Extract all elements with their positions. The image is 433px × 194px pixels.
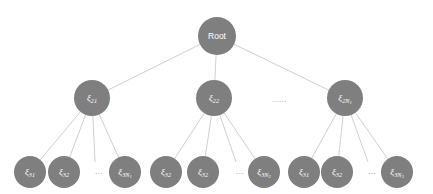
tree-node-level2-1-label: ξ22 [209, 94, 219, 103]
tree-node-leaf-2-2-label: ξ3N3 [390, 168, 403, 177]
tree-node-leaf-1-0-label: ξ32 [161, 168, 171, 177]
tree-node-leaf-1-0[interactable]: ξ32 [150, 156, 182, 188]
tree-node-leaf-2-2[interactable]: ξ3N3 [381, 156, 413, 188]
tree-leaf-group-1-ellipsis: ... [236, 168, 244, 176]
tree-node-root-label: Root [208, 32, 226, 41]
tree-leaf-group-2-ellipsis: ... [368, 168, 376, 176]
tree-node-leaf-0-2-label: ξ3N1 [118, 168, 131, 177]
tree-node-level2-2[interactable]: ξ2N1 [327, 80, 363, 116]
tree-node-level2-0[interactable]: ξ21 [74, 80, 110, 116]
tree-node-level2-1[interactable]: ξ22 [196, 80, 232, 116]
tree-node-leaf-1-2[interactable]: ξ3N2 [248, 156, 280, 188]
tree-node-level2-2-label: ξ2N1 [338, 94, 351, 103]
tree-node-leaf-0-0[interactable]: ξ31 [14, 156, 46, 188]
tree-level2-ellipsis: ...... [272, 96, 287, 103]
tree-leaf-group-0-ellipsis: ... [95, 168, 103, 176]
tree-node-leaf-1-1-label: ξ32 [198, 168, 208, 177]
tree-node-leaf-1-1[interactable]: ξ32 [187, 156, 219, 188]
tree-node-leaf-0-1[interactable]: ξ32 [48, 156, 80, 188]
tree-node-leaf-0-1-label: ξ32 [59, 168, 69, 177]
tree-node-leaf-2-0-label: ξ31 [299, 168, 309, 177]
tree-node-root[interactable]: Root [198, 17, 236, 55]
tree-diagram: Rootξ21ξ22ξ2N1......ξ31ξ32ξ3N1...ξ32ξ32ξ… [0, 0, 433, 194]
tree-node-leaf-2-1-label: ξ32 [332, 168, 342, 177]
tree-node-level2-0-label: ξ21 [87, 94, 97, 103]
tree-node-leaf-0-2[interactable]: ξ3N1 [109, 156, 141, 188]
tree-edge-root-to-level2-2 [217, 36, 345, 98]
tree-node-leaf-0-0-label: ξ31 [25, 168, 35, 177]
tree-node-leaf-2-0[interactable]: ξ31 [288, 156, 320, 188]
tree-node-leaf-2-1[interactable]: ξ32 [321, 156, 353, 188]
tree-node-leaf-1-2-label: ξ3N2 [257, 168, 270, 177]
